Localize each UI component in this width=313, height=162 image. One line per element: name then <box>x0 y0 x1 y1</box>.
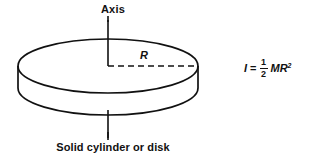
formula-exponent-two: 2 <box>288 62 292 69</box>
radius-label: R <box>140 50 148 61</box>
body-label: Solid cylinder or disk <box>0 142 226 153</box>
moment-of-inertia-formula: I = 1 2 MR 2 <box>244 58 292 80</box>
axis-label: Axis <box>0 4 226 15</box>
fraction-denominator: 2 <box>260 69 267 79</box>
formula-fraction-one-half: 1 2 <box>260 58 268 80</box>
formula-symbol-i: I <box>244 63 247 74</box>
solid-cylinder-diagram <box>0 0 313 162</box>
fraction-numerator: 1 <box>260 58 267 68</box>
formula-equals-sign: = <box>250 63 256 74</box>
formula-term-mr: MR <box>271 63 288 74</box>
